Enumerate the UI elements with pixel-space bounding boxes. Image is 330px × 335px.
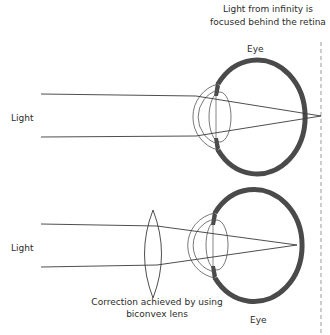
bottom-light-label: Light — [11, 242, 33, 254]
lens-caption-line-1: Correction achieved by using — [84, 296, 230, 308]
bottom-light-rays — [41, 224, 297, 267]
bottom-eye-cornea-inner — [193, 219, 215, 272]
diagram-artwork — [0, 0, 330, 335]
lens-caption-line-2: biconvex lens — [84, 308, 230, 320]
title-line-1: Light from infinity is — [206, 3, 330, 16]
top-eye-label: Eye — [247, 43, 264, 55]
biconvex-correction-lens — [145, 210, 162, 298]
title-line-2: focused behind the retina — [206, 16, 330, 29]
bottom-eye-cornea-outer — [188, 213, 215, 278]
top-light-rays — [41, 94, 321, 137]
top-eye-cornea-outer — [193, 84, 218, 150]
top-light-label: Light — [11, 112, 33, 124]
diagram-title: Light from infinity is focused behind th… — [206, 3, 330, 29]
top-eye — [193, 60, 305, 174]
lens-caption: Correction achieved by using biconvex le… — [84, 296, 230, 320]
hyperopia-diagram: Light from infinity is focused behind th… — [0, 0, 330, 335]
bottom-eye — [188, 190, 302, 302]
bottom-eye-label: Eye — [250, 314, 267, 326]
bottom-eye-lens — [206, 220, 228, 270]
